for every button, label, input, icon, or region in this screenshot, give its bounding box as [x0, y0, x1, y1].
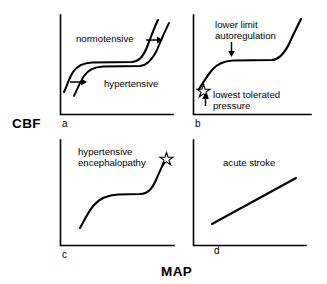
panel-a: normotensive hypertensive a	[61, 15, 174, 129]
panel-c-star-breakthrough	[160, 153, 173, 165]
panel-d-curve-acute-stroke	[212, 178, 296, 224]
panel-letter-c: c	[62, 249, 67, 260]
panel-c: hypertensive encephalopathy c	[61, 140, 175, 260]
panel-a-label-normotensive: normotensive	[76, 33, 134, 44]
panel-letter-b: b	[195, 118, 201, 129]
panel-letter-a: a	[62, 118, 68, 129]
panel-c-curve-hypertensive-encephalopathy	[80, 163, 164, 228]
panel-d-axes	[194, 140, 307, 246]
panel-d-label-acute-stroke: acute stroke	[223, 157, 275, 168]
x-axis-title-map: MAP	[161, 264, 192, 279]
y-axis-title-cbf: CBF	[12, 116, 41, 131]
panel-b-down-arrow-to-knee	[228, 42, 235, 57]
panel-c-label-line1: hypertensive	[78, 146, 132, 157]
autoregulation-figure: normotensive hypertensive a lower limi	[0, 0, 327, 284]
figure-canvas: normotensive hypertensive a lower limi	[0, 0, 327, 284]
panel-b-up-arrow-to-star	[202, 93, 209, 106]
panel-b-label-lowest-tolerated-line1: lowest tolerated	[213, 89, 280, 100]
panel-b-label-lower-limit-line1: lower limit	[215, 19, 258, 30]
panel-b: lower limit autoregulation lowest tolera…	[194, 15, 312, 129]
panel-b-label-lower-limit-line2: autoregulation	[215, 30, 276, 41]
panel-b-star-lowest-tolerated-pressure	[197, 85, 210, 97]
panel-a-label-hypertensive: hypertensive	[104, 78, 158, 89]
panel-c-label-line2: encephalopathy	[78, 157, 146, 168]
panel-a-axes	[61, 15, 174, 115]
panel-letter-d: d	[214, 245, 220, 256]
panel-d: acute stroke d	[194, 140, 307, 256]
panel-b-label-lowest-tolerated-line2: pressure	[213, 100, 250, 111]
